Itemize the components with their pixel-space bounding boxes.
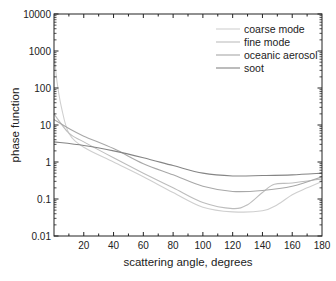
legend-label: coarse mode xyxy=(244,23,305,35)
x-tick-label: 180 xyxy=(314,240,331,251)
x-tick-label: 20 xyxy=(78,240,90,251)
phase-function-chart: 204060801001201401601800.010.11101001000… xyxy=(0,0,336,281)
y-tick-label: 10000 xyxy=(23,9,51,20)
x-tick-label: 80 xyxy=(168,240,180,251)
x-tick-label: 60 xyxy=(138,240,150,251)
legend-label: fine mode xyxy=(244,36,290,48)
legend-label: soot xyxy=(244,62,264,74)
y-tick-label: 1000 xyxy=(29,46,52,57)
legend: coarse modefine modeoceanic aerosolsoot xyxy=(216,23,318,74)
x-tick-label: 160 xyxy=(284,240,301,251)
plot-series xyxy=(54,59,322,212)
y-tick-label: 1 xyxy=(45,157,51,168)
series-line-fine-mode xyxy=(54,114,322,209)
legend-item-fine-mode: fine mode xyxy=(216,36,290,48)
x-tick-label: 40 xyxy=(108,240,120,251)
series-line-coarse-mode xyxy=(55,59,322,212)
y-tick-label: 0.01 xyxy=(32,231,52,242)
y-tick-label: 10 xyxy=(40,120,52,131)
y-tick-label: 100 xyxy=(34,83,51,94)
x-tick-label: 120 xyxy=(224,240,241,251)
legend-item-coarse-mode: coarse mode xyxy=(216,23,305,35)
legend-item-soot: soot xyxy=(216,62,264,74)
x-tick-label: 100 xyxy=(195,240,212,251)
legend-item-oceanic-aerosol: oceanic aerosol xyxy=(216,49,318,61)
series-line-soot xyxy=(54,142,322,176)
x-tick-label: 140 xyxy=(254,240,271,251)
y-axis-label: phase function xyxy=(9,88,21,163)
x-axis-label: scattering angle, degrees xyxy=(123,256,252,268)
y-tick-label: 0.1 xyxy=(37,194,51,205)
series-line-oceanic-aerosol xyxy=(54,120,322,192)
legend-label: oceanic aerosol xyxy=(244,49,318,61)
